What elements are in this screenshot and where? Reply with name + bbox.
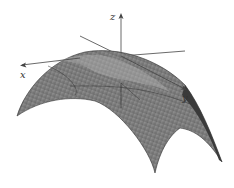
z-axis-label: z [109, 11, 116, 22]
parabolic-surface [17, 51, 222, 173]
z-axis [119, 13, 124, 56]
y-axis-label: y [181, 92, 188, 103]
x-axis-label: x [20, 69, 26, 80]
surface-plot: z x y [0, 0, 234, 188]
